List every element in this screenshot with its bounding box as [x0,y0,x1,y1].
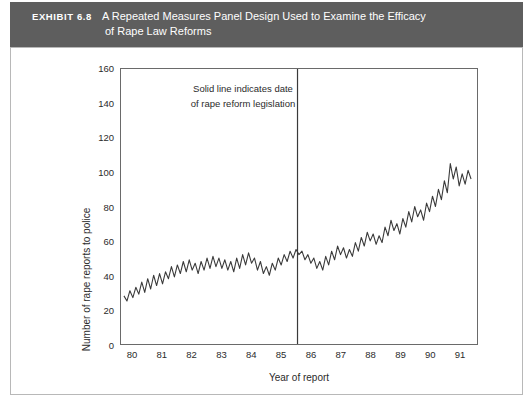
x-axis-tick-label: 86 [296,349,326,360]
x-axis-label: Year of report [120,372,478,383]
x-axis-tick-label: 85 [266,349,296,360]
x-axis-tick-label: 90 [415,349,445,360]
x-axis-tick-label: 89 [385,349,415,360]
x-axis: 808182838485868788899091 [120,349,478,365]
x-axis-tick-label: 81 [147,349,177,360]
y-axis-tick-label: 0 [56,340,114,351]
x-axis-tick-label: 82 [177,349,207,360]
x-axis-tick-label: 80 [117,349,147,360]
y-axis-tick-label: 60 [56,236,114,247]
y-axis-tick-label: 160 [56,63,114,74]
x-axis-tick-label: 88 [356,349,386,360]
exhibit-number-label: EXHIBIT 6.8 [32,11,92,22]
x-axis-tick-label: 87 [326,349,356,360]
y-axis-tick-label: 40 [56,270,114,281]
exhibit-title-line1: A Repeated Measures Panel Design Used to… [102,10,426,22]
exhibit-figure: EXHIBIT 6.8A Repeated Measures Panel Des… [0,0,531,403]
y-axis-tick-label: 20 [56,305,114,316]
plot-area: Solid line indicates date of rape reform… [120,68,478,345]
y-axis-tick-label: 80 [56,201,114,212]
x-axis-tick-label: 84 [236,349,266,360]
y-axis-tick-label: 120 [56,132,114,143]
chart-annotation: Solid line indicates date of rape reform… [153,81,333,111]
exhibit-title-line2: of Rape Law Reforms [105,24,513,39]
y-axis: Number of rape reports to police 0204060… [54,68,114,345]
x-axis-tick-label: 83 [206,349,236,360]
y-axis-tick-label: 140 [56,97,114,108]
y-axis-tick-label: 100 [56,166,114,177]
x-axis-tick-label: 91 [445,349,475,360]
exhibit-banner: EXHIBIT 6.8A Repeated Measures Panel Des… [10,2,523,47]
banner-text-block: EXHIBIT 6.8A Repeated Measures Panel Des… [32,9,513,39]
